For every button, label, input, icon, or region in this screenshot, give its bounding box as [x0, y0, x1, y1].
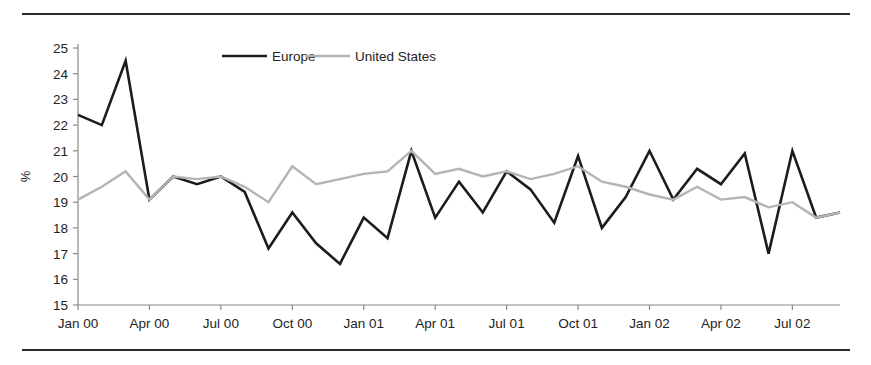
y-tick-label-23: 23: [53, 92, 68, 107]
y-tick-label-22: 22: [53, 118, 68, 133]
x-tick-label-5: Apr 01: [415, 316, 455, 331]
line-chart-figure: 1516171819202122232425 Jan 00Apr 00Jul 0…: [0, 22, 871, 342]
y-tick-label-18: 18: [53, 221, 68, 236]
y-tick-label-21: 21: [53, 144, 68, 159]
x-tick-label-9: Apr 02: [701, 316, 741, 331]
x-tick-label-8: Jan 02: [629, 316, 670, 331]
x-tick-label-10: Jul 02: [774, 316, 810, 331]
x-tick-label-2: Jul 00: [203, 316, 239, 331]
y-tick-label-20: 20: [53, 170, 68, 185]
x-tick-group: Jan 00Apr 00Jul 00Oct 00Jan 01Apr 01Jul …: [58, 305, 811, 331]
x-tick-label-4: Jan 01: [343, 316, 384, 331]
y-tick-group: 1516171819202122232425: [53, 41, 78, 313]
y-axis: 1516171819202122232425: [53, 41, 78, 313]
y-axis-title: %: [18, 170, 33, 182]
x-tick-label-1: Apr 00: [130, 316, 170, 331]
x-axis: Jan 00Apr 00Jul 00Oct 00Jan 01Apr 01Jul …: [58, 305, 840, 331]
x-tick-label-0: Jan 00: [58, 316, 99, 331]
y-tick-label-16: 16: [53, 272, 68, 287]
chart-canvas: 1516171819202122232425 Jan 00Apr 00Jul 0…: [0, 22, 871, 342]
y-tick-label-15: 15: [53, 298, 68, 313]
series-group: [78, 61, 840, 264]
bottom-horizontal-rule: [22, 349, 850, 351]
y-tick-label-17: 17: [53, 247, 68, 262]
legend-label-united-states: United States: [355, 49, 436, 64]
chart-legend: EuropeUnited States: [222, 49, 436, 64]
top-horizontal-rule: [22, 13, 850, 15]
y-tick-label-25: 25: [53, 41, 68, 56]
y-tick-label-24: 24: [53, 67, 69, 82]
x-tick-label-7: Oct 01: [558, 316, 598, 331]
chart-page: 1516171819202122232425 Jan 00Apr 00Jul 0…: [0, 0, 871, 365]
series-line-united-states: [78, 151, 840, 218]
x-tick-label-3: Oct 00: [272, 316, 312, 331]
y-tick-label-19: 19: [53, 195, 68, 210]
x-tick-label-6: Jul 01: [489, 316, 525, 331]
series-line-europe: [78, 61, 840, 264]
